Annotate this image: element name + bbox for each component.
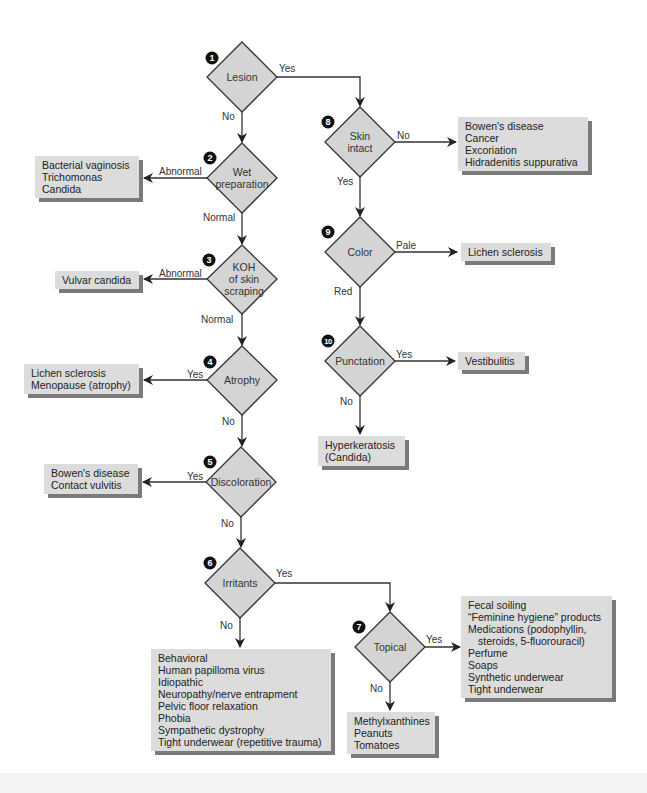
outcome-item: Lichen sclerosis (31, 367, 133, 379)
outcome-box-koh-abnormal: Vulvar candida (55, 271, 139, 289)
outcome-item: Bowen's disease (51, 467, 132, 479)
step-badge-10: 10 (322, 335, 335, 348)
edge-label-irritants-no: No (220, 620, 233, 631)
edge-irritants-yes (275, 583, 390, 611)
outcome-item: Hyperkeratosis (325, 439, 399, 451)
outcome-item: Behavioral (158, 652, 325, 664)
edge-label-atrophy-yes: Yes (187, 369, 203, 380)
outcome-box-wet-abnormal: Bacterial vaginosis Trichomonas Candida (35, 156, 139, 198)
edge-label-koh-abnormal: Abnormal (159, 268, 202, 279)
outcome-item: Tomatoes (354, 739, 429, 751)
outcome-item: Neuropathy/nerve entrapment (158, 688, 325, 700)
outcome-item: Vestibulitis (465, 355, 519, 367)
edge-label-punctation-no: No (340, 396, 353, 407)
step-badge-3: 3 (203, 254, 216, 267)
outcome-item: Idiopathic (158, 676, 325, 688)
outcome-item: Human papilloma virus (158, 664, 325, 676)
outcome-item: Tight underwear (repetitive trauma) (158, 736, 325, 748)
node-label-koh: KOH of skin scraping (224, 261, 264, 297)
edge-label-skin-yes: Yes (337, 176, 353, 187)
node-label-lesion: Lesion (227, 71, 258, 83)
node-label-wet-preparation: Wet preparation (215, 166, 268, 190)
outcome-item: Bacterial vaginosis (42, 159, 133, 171)
outcome-box-atrophy-yes: Lichen sclerosis Menopause (atrophy) (24, 364, 139, 394)
outcome-item: Perfume (468, 647, 606, 659)
outcome-item: Candida (42, 183, 133, 195)
outcome-item: Soaps (468, 659, 606, 671)
edge-label-discoloration-no: No (221, 518, 234, 529)
step-badge-7: 7 (353, 621, 366, 634)
edge-label-discoloration-yes: Yes (187, 471, 203, 482)
outcome-box-irritants-no: Behavioral Human papilloma virus Idiopat… (151, 649, 331, 751)
outcome-item: Sympathetic dystrophy (158, 724, 325, 736)
outcome-item: Excoriation (465, 144, 582, 156)
outcome-item: Pelvic floor relaxation (158, 700, 325, 712)
bottom-scan-band (0, 773, 647, 793)
outcome-item: Medications (podophyllin, (468, 623, 606, 635)
outcome-item: Hidradenitis suppurativa (465, 156, 582, 168)
edge-label-topical-no: No (370, 683, 383, 694)
node-label-topical: Topical (374, 641, 407, 653)
edge-label-color-red: Red (334, 286, 352, 297)
outcome-item: Fecal soiling (468, 599, 606, 611)
step-badge-4: 4 (204, 356, 217, 369)
edge-label-topical-yes: Yes (426, 634, 442, 645)
edge-label-atrophy-no: No (222, 416, 235, 427)
step-badge-8: 8 (322, 116, 335, 129)
outcome-box-topical-no: Methylxanthines Peanuts Tomatoes (347, 712, 435, 754)
outcome-item: Menopause (atrophy) (31, 379, 133, 391)
step-badge-5: 5 (204, 456, 217, 469)
node-label-irritants: Irritants (222, 577, 257, 589)
node-label-atrophy: Atrophy (224, 374, 260, 386)
outcome-item: Synthetic underwear (468, 671, 606, 683)
outcome-item: Phobia (158, 712, 325, 724)
outcome-item: “Feminine hygiene” products (468, 611, 606, 623)
edge-label-irritants-yes: Yes (276, 568, 292, 579)
outcome-item: Tight underwear (468, 683, 606, 695)
edge-label-color-pale: Pale (396, 240, 416, 251)
step-badge-1: 1 (206, 52, 219, 65)
outcome-item: (Candida) (325, 451, 399, 463)
edge-label-skin-no: No (397, 130, 410, 141)
step-badge-9: 9 (322, 226, 335, 239)
outcome-box-punctation-no: Hyperkeratosis (Candida) (318, 436, 405, 466)
outcome-box-color-pale: Lichen sclerosis (461, 243, 551, 261)
outcome-item: Vulvar candida (62, 274, 133, 286)
outcome-item: Peanuts (354, 727, 429, 739)
node-label-discoloration: Discoloration (211, 476, 272, 488)
outcome-box-discoloration-yes: Bowen's disease Contact vulvitis (44, 464, 138, 494)
outcome-box-skin-no: Bowen's disease Cancer Excoriation Hidra… (458, 117, 588, 171)
step-badge-6: 6 (204, 557, 217, 570)
outcome-item: Methylxanthines (354, 715, 429, 727)
edge-label-lesion-yes: Yes (279, 63, 295, 74)
node-label-skin-intact: Skin intact (347, 130, 372, 154)
edge-label-lesion-no: No (222, 111, 235, 122)
outcome-box-punctation-yes: Vestibulitis (458, 352, 525, 370)
outcome-item: Trichomonas (42, 171, 133, 183)
outcome-item: Contact vulvitis (51, 479, 132, 491)
outcome-item: Bowen's disease (465, 120, 582, 132)
node-label-color: Color (347, 246, 372, 258)
edge-label-punctation-yes: Yes (396, 349, 412, 360)
outcome-item: Cancer (465, 132, 582, 144)
edge-label-koh-normal: Normal (201, 314, 233, 325)
outcome-item: Lichen sclerosis (468, 246, 545, 258)
outcome-item: steroids, 5-fluorouracil) (468, 635, 606, 647)
edge-label-wet-normal: Normal (203, 212, 235, 223)
step-badge-2: 2 (204, 152, 217, 165)
outcome-box-topical-yes: Fecal soiling “Feminine hygiene” product… (461, 596, 612, 698)
edge-lesion-yes (277, 77, 360, 106)
edge-label-wet-abnormal: Abnormal (159, 166, 202, 177)
node-label-punctation: Punctation (335, 355, 385, 367)
